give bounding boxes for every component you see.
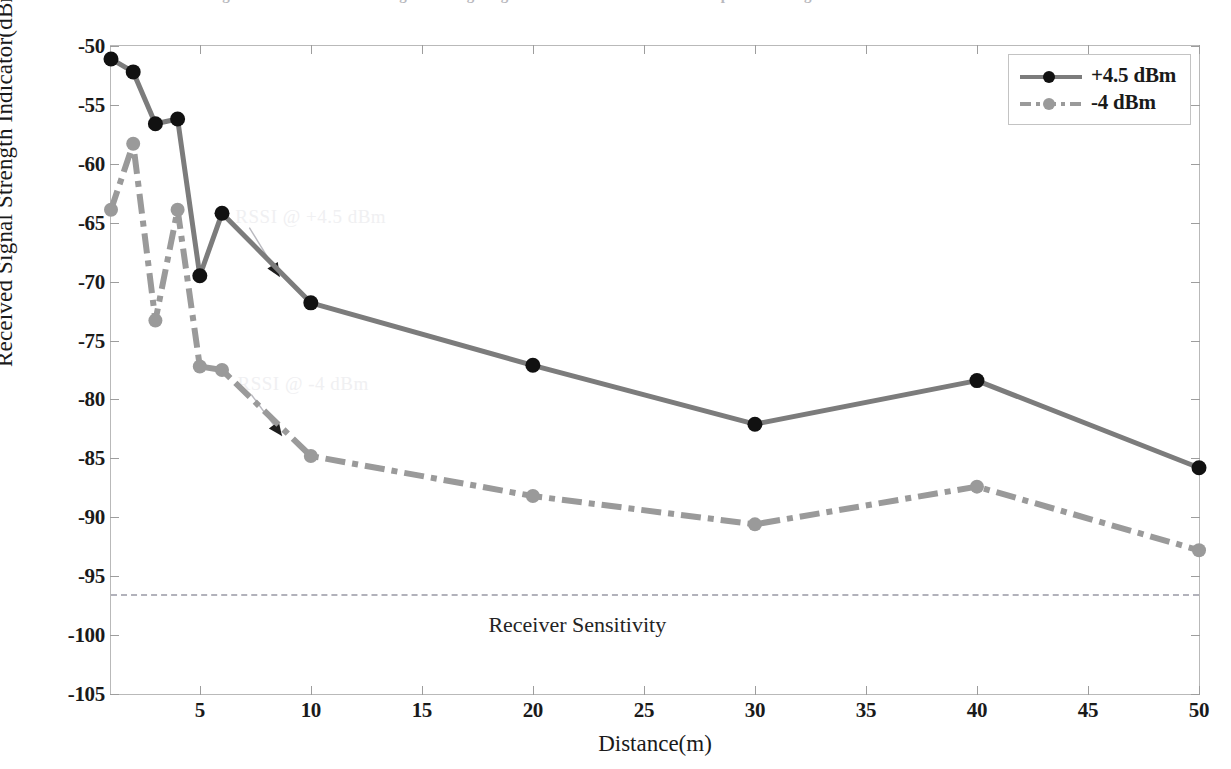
data-point-marker xyxy=(303,295,318,310)
data-point-marker xyxy=(170,112,185,127)
y-axis-title: Received Signal Strength Indicator(dBm) xyxy=(0,0,18,367)
data-point-marker xyxy=(104,203,118,217)
data-point-marker xyxy=(215,363,229,377)
legend[interactable]: +4.5 dBm -4 dBm xyxy=(1008,54,1191,125)
y-tick-label: -75 xyxy=(78,328,105,353)
data-point-marker xyxy=(148,116,163,131)
x-tick-label: 15 xyxy=(412,698,432,723)
data-point-marker xyxy=(192,268,207,283)
data-point-marker xyxy=(748,517,762,531)
clipped-caption-text: Figure Measured received signal strength… xyxy=(208,0,818,4)
y-tick-label: -50 xyxy=(78,34,105,59)
data-point-marker xyxy=(525,358,540,373)
legend-swatch-solid xyxy=(1020,69,1082,83)
data-point-marker xyxy=(1192,460,1207,475)
data-point-marker xyxy=(126,137,140,151)
legend-item[interactable]: -4 dBm xyxy=(1020,89,1176,116)
y-tick-label: -70 xyxy=(78,269,105,294)
plot-area: -105-100-95-90-85-80-75-70-65-60-55-5051… xyxy=(110,45,1200,695)
x-axis-title: Distance(m) xyxy=(598,731,712,757)
x-tick-label: 5 xyxy=(195,698,205,723)
y-tick xyxy=(110,694,119,695)
y-tick-label: -105 xyxy=(68,682,105,707)
x-tick-label: 45 xyxy=(1078,698,1098,723)
data-point-marker xyxy=(526,489,540,503)
x-tick-label: 50 xyxy=(1189,698,1209,723)
data-point-marker xyxy=(1192,543,1206,557)
x-tick-label: 40 xyxy=(967,698,987,723)
rssi-vs-distance-figure: Figure Measured received signal strength… xyxy=(0,0,1231,769)
data-point-marker xyxy=(969,373,984,388)
legend-label: +4.5 dBm xyxy=(1091,63,1176,88)
x-tick-label: 30 xyxy=(745,698,765,723)
series-layer xyxy=(111,46,1199,694)
data-point-marker xyxy=(104,51,119,66)
series-line xyxy=(111,144,1199,550)
data-point-marker xyxy=(304,449,318,463)
x-tick-label: 25 xyxy=(634,698,654,723)
data-point-marker xyxy=(215,206,230,221)
legend-label: -4 dBm xyxy=(1091,90,1156,115)
clipped-caption-band: Figure Measured received signal strength… xyxy=(0,0,1231,14)
y-tick-label: -85 xyxy=(78,446,105,471)
data-point-marker xyxy=(747,417,762,432)
x-tick xyxy=(1199,45,1200,54)
y-tick-label: -55 xyxy=(78,92,105,117)
y-tick-label: -60 xyxy=(78,151,105,176)
y-tick-label: -65 xyxy=(78,210,105,235)
data-point-marker xyxy=(148,314,162,328)
legend-item[interactable]: +4.5 dBm xyxy=(1020,62,1176,89)
legend-swatch-dashdot xyxy=(1020,96,1082,110)
data-point-marker xyxy=(193,359,207,373)
y-tick-label: -90 xyxy=(78,505,105,530)
y-tick-label: -80 xyxy=(78,387,105,412)
data-point-marker xyxy=(126,64,141,79)
y-tick-label: -100 xyxy=(68,623,105,648)
x-tick-label: 35 xyxy=(856,698,876,723)
data-point-marker xyxy=(171,203,185,217)
y-tick-label: -95 xyxy=(78,564,105,589)
x-tick-label: 20 xyxy=(523,698,543,723)
data-point-marker xyxy=(970,480,984,494)
x-tick xyxy=(1199,686,1200,695)
x-tick-label: 10 xyxy=(301,698,321,723)
